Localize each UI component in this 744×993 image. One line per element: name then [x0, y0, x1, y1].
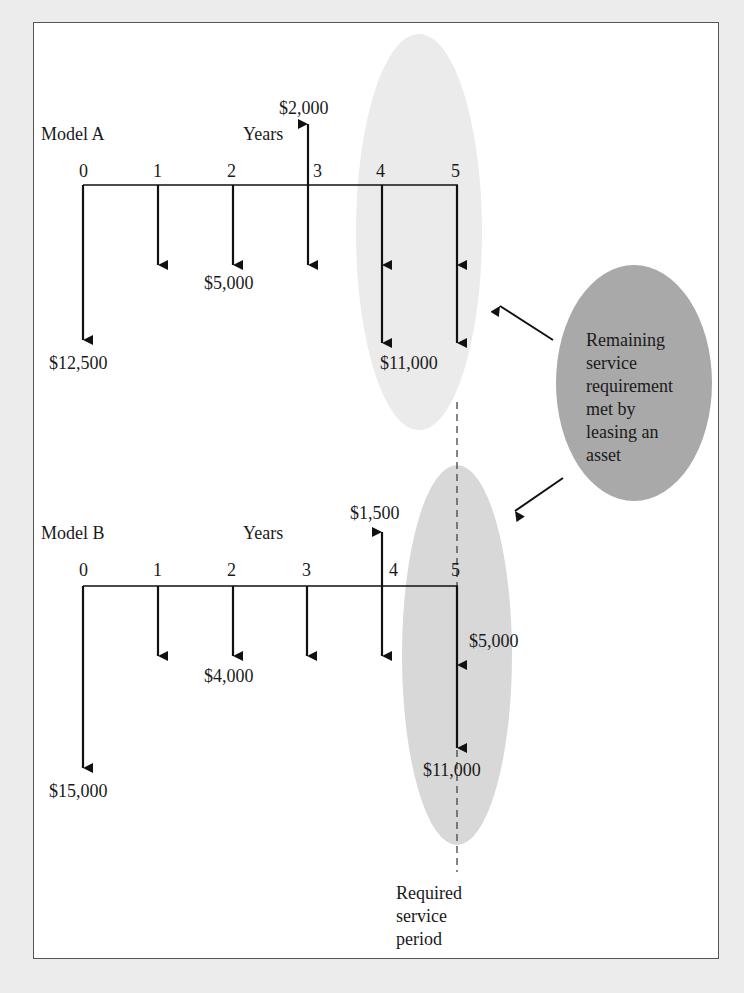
model-a-tick-0: 0 [79, 161, 88, 181]
callout-arrow-to-model-b [515, 478, 563, 511]
model-b-tick-4: 4 [389, 560, 398, 580]
model-b-initial-cost-label: $15,000 [49, 781, 108, 801]
model-b-title: Model B [41, 523, 105, 543]
model-b-tick-5: 5 [451, 560, 460, 580]
model-b-tick-3: 3 [302, 560, 311, 580]
model-b-lease-label: $11,000 [423, 760, 481, 780]
model-a-initial-cost-label: $12,500 [49, 353, 108, 373]
callout-arrow-to-model-a [500, 306, 553, 340]
model-b-tick-0: 0 [79, 560, 88, 580]
model-b-year5-cost-label: $5,000 [469, 631, 519, 651]
model-a-tick-1: 1 [153, 161, 162, 181]
model-a-annual-cost-label: $5,000 [204, 273, 254, 293]
model-b-tick-2: 2 [227, 560, 236, 580]
model-a-tick-4: 4 [376, 161, 385, 181]
cash-flow-diagram: Model A Years 0 1 2 3 4 5 $2,000 $5,000 … [0, 0, 744, 993]
model-a-years-label: Years [243, 124, 283, 144]
model-a-tick-3: 3 [313, 161, 322, 181]
model-a-salvage-label: $2,000 [279, 98, 329, 118]
model-b-annual-cost-label: $4,000 [204, 666, 254, 686]
required-service-period-label: Required service period [396, 883, 466, 949]
model-a-tick-5: 5 [451, 161, 460, 181]
model-b-years-label: Years [243, 523, 283, 543]
model-b-salvage-label: $1,500 [350, 503, 400, 523]
model-a-title: Model A [41, 124, 105, 144]
model-a-tick-2: 2 [227, 161, 236, 181]
model-b-tick-1: 1 [153, 560, 162, 580]
model-a-lease-label: $11,000 [380, 353, 438, 373]
